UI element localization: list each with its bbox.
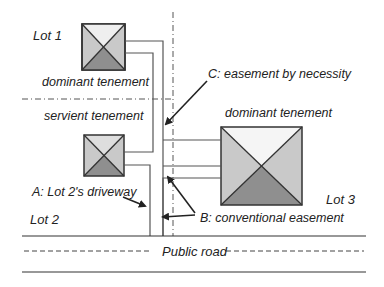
dominant-tenement-lot3-label: dominant tenement xyxy=(225,106,333,120)
driveway-a-label: A: Lot 2's driveway xyxy=(31,185,137,199)
lot1-label: Lot 1 xyxy=(33,28,62,43)
easement-c-path xyxy=(124,41,163,236)
dominant-tenement-lot1-label: dominant tenement xyxy=(42,75,150,89)
arrow-b-upper-icon xyxy=(168,177,195,213)
lot3-label: Lot 3 xyxy=(326,192,356,207)
public-road-label: Public road xyxy=(162,244,228,259)
easement-b-label: B: conventional easement xyxy=(200,211,344,225)
lot1-house-icon xyxy=(82,24,125,70)
lot2-label: Lot 2 xyxy=(30,212,60,227)
arrow-b-lower-icon xyxy=(163,215,195,217)
lot3-house-icon xyxy=(221,127,302,205)
driveway-a-path xyxy=(124,165,150,236)
easement-c-label: C: easement by necessity xyxy=(208,67,352,81)
easement-diagram: Lot 1 dominant tenement servient tenemen… xyxy=(0,0,384,287)
arrow-c-icon xyxy=(166,81,207,124)
servient-tenement-label: servient tenement xyxy=(44,109,144,123)
lot2-house-icon xyxy=(84,135,124,176)
